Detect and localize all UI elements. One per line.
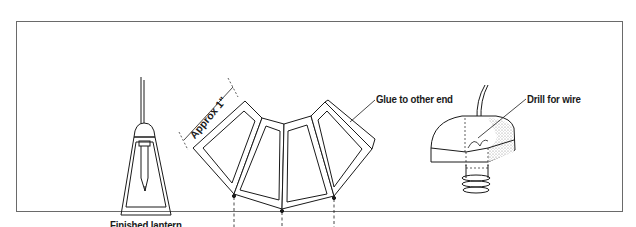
finished-lantern-label: Finished lantern — [110, 219, 182, 227]
drill-label: Drill for wire — [527, 93, 581, 105]
glue-label: Glue to other end — [376, 93, 453, 105]
finished-lantern-icon — [121, 77, 171, 215]
lantern-panel-strip — [179, 78, 375, 227]
diagram-artwork — [0, 0, 636, 227]
